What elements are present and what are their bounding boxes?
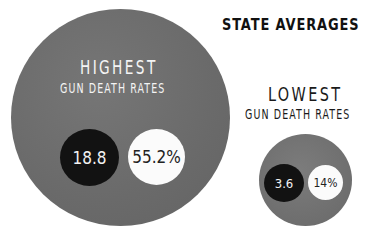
highest-label: HIGHEST <box>80 56 158 78</box>
highest-sublabel: GUN DEATH RATES <box>60 80 165 96</box>
highest-group-circle <box>11 9 230 226</box>
highest-percent-value: 55.2% <box>132 147 181 167</box>
chart-title: STATE AVERAGES <box>222 15 360 34</box>
lowest-rate-value: 3.6 <box>275 176 294 191</box>
highest-rate-value: 18.8 <box>72 148 106 168</box>
highest-rate-bubble: 18.8 <box>60 129 119 186</box>
lowest-sublabel: GUN DEATH RATES <box>245 106 350 122</box>
lowest-rate-bubble: 3.6 <box>264 164 304 202</box>
lowest-percent-value: 14% <box>314 176 338 190</box>
lowest-percent-bubble: 14% <box>308 165 343 200</box>
highest-percent-bubble: 55.2% <box>128 129 185 185</box>
lowest-label: LOWEST <box>268 82 342 106</box>
